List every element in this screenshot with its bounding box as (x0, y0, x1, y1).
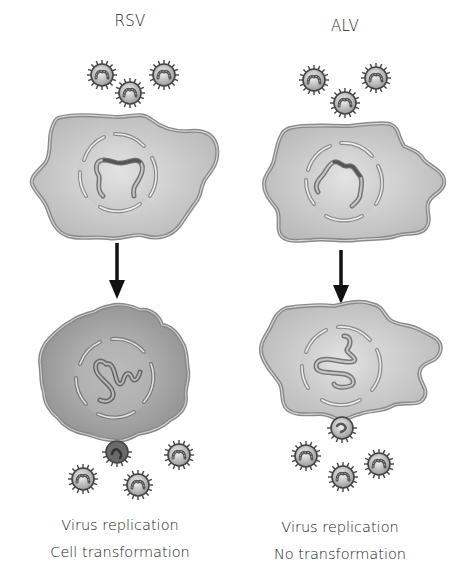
nucleus (304, 141, 384, 221)
virus-particle-icon (328, 462, 358, 492)
nucleus (74, 338, 154, 418)
alv-host-cell-after (261, 302, 441, 420)
virus-particle-icon (68, 464, 98, 494)
virus-particle-icon (149, 60, 179, 90)
arrow-down-icon (333, 250, 349, 304)
virus-particle-icon (364, 449, 394, 479)
alv-host-cell-before (264, 123, 444, 241)
retrovirus-infection-diagram (0, 0, 467, 588)
arrow-down-icon (109, 243, 125, 299)
rsv-host-cell-after (40, 305, 188, 441)
alv-title: ALV (320, 17, 370, 35)
nucleus (78, 132, 158, 212)
rsv-host-cell-before (32, 115, 218, 239)
rsv-caption-transformation: Cell transformation (30, 539, 210, 566)
rsv-title: RSV (105, 12, 155, 30)
nucleus (300, 326, 381, 406)
virus-particle-icon (361, 63, 391, 93)
alv-panel (261, 63, 444, 492)
virus-particle-icon (87, 60, 117, 90)
virus-particle-icon (299, 65, 329, 95)
virus-particle-icon (164, 440, 194, 470)
virus-particle-icon (123, 470, 153, 500)
virus-particle-icon (330, 88, 360, 118)
budding-virus-icon (102, 441, 132, 467)
rsv-caption-replication: Virus replication (30, 512, 210, 539)
rsv-panel (32, 60, 218, 500)
alv-caption-transformation: No transformation (250, 541, 430, 568)
budding-virus-icon (327, 417, 357, 443)
alv-caption-replication: Virus replication (250, 514, 430, 541)
virus-particle-icon (115, 78, 145, 108)
virus-particle-icon (291, 441, 321, 471)
